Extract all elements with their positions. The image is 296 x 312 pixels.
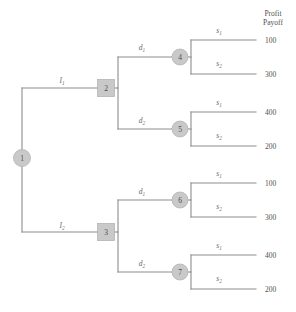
branch-label-s2-node4: s2 — [216, 59, 222, 69]
node-6-label: 6 — [178, 196, 182, 205]
node-1-label: 1 — [20, 154, 24, 163]
payoff-header-line2: Payoff — [263, 18, 283, 27]
payoff-value-7: 400 — [265, 251, 277, 260]
decision-tree-diagram: 1 2 3 4 5 6 7 I1 I2 d1 d2 d1 d2 s1 s2 s1… — [0, 0, 296, 312]
branch-label-s1-node4: s1 — [216, 26, 222, 36]
payoff-header-line1: Profit — [264, 9, 282, 18]
node-3-label: 3 — [104, 228, 108, 237]
branch-label-s1-node7: s1 — [216, 241, 222, 251]
payoff-value-4: 200 — [265, 142, 277, 151]
branch-label-i1: I1 — [58, 76, 65, 86]
payoff-value-5: 100 — [265, 179, 277, 188]
branch-label-s1-node6: s1 — [216, 169, 222, 179]
branch-label-d1-node3: d1 — [139, 187, 146, 197]
tree-svg-canvas: 1 2 3 4 5 6 7 I1 I2 d1 d2 d1 d2 s1 s2 s1… — [0, 0, 296, 312]
branch-label-s2-node5: s2 — [216, 131, 222, 141]
branch-label-s2-node7: s2 — [216, 274, 222, 284]
payoff-value-8: 200 — [265, 285, 277, 294]
node-2-label: 2 — [104, 84, 108, 93]
branch-label-d2-node2: d2 — [139, 116, 146, 126]
node-5-label: 5 — [178, 125, 182, 134]
branch-label-s1-node5: s1 — [216, 98, 222, 108]
branch-label-d1-node2: d1 — [139, 43, 146, 53]
branch-label-s2-node6: s2 — [216, 202, 222, 212]
node-4-label: 4 — [178, 53, 182, 62]
branch-label-i2: I2 — [58, 221, 65, 231]
payoff-value-3: 400 — [265, 108, 277, 117]
payoff-value-1: 100 — [265, 36, 277, 45]
branch-label-d2-node3: d2 — [139, 259, 146, 269]
node-7-label: 7 — [178, 268, 182, 277]
payoff-value-6: 300 — [265, 213, 277, 222]
payoff-value-2: 300 — [265, 70, 277, 79]
